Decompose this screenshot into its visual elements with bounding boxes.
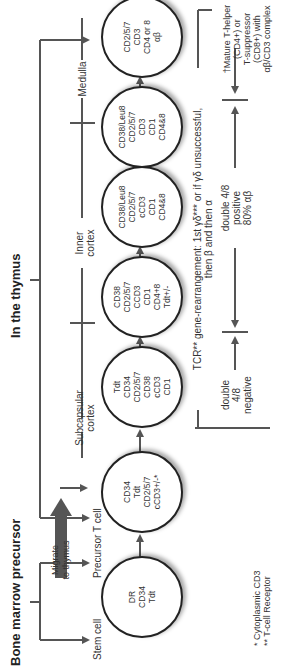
marker: CD2/5/7 <box>132 371 142 402</box>
stage-circle-subcapsular: Tdt CD34 CD2/5/7 CD38 cCD3 CD1 <box>101 346 183 428</box>
marker: cCD3 <box>152 376 162 397</box>
stage-circle-stem-cell: DR CD34 Tdt <box>101 556 183 638</box>
marker: CCD3 <box>132 285 142 308</box>
marker: CD4&8 <box>157 113 167 140</box>
marker: CD1 <box>142 289 152 306</box>
tcr-rearrangement-note: TCR** gene-rearrangement: 1st γδ*** or i… <box>192 68 214 410</box>
tcr-note-line: then β and then α <box>203 68 214 410</box>
marker: CD38 <box>112 286 122 308</box>
phase-line: positive <box>231 170 242 246</box>
stem-cell-label: Stem cell <box>92 619 103 660</box>
marker: DR <box>127 591 137 603</box>
stage-circle-inner-cortex-2: CD38/Leu8 CD2/5/7 CD3 CD1 CD4&8 <box>101 86 183 168</box>
marker: CD34 <box>122 376 132 398</box>
marker: Tdt <box>147 591 157 603</box>
region-label-line: Subcapsular <box>74 378 85 458</box>
marker: CD1 <box>162 379 172 396</box>
marker: CD38/Leu8 <box>117 106 127 149</box>
marker: CD38 <box>142 376 152 398</box>
migrate-label-line: to thymus <box>61 530 72 590</box>
thymus-header: In the thymus <box>8 253 23 338</box>
medulla-label: Medulla <box>77 60 88 98</box>
phase-line: T-suppressor <box>242 0 252 80</box>
migrate-label-line: Migrate <box>50 530 61 590</box>
tcr-note-line: TCR** gene-rearrangement: 1st γδ*** or i… <box>192 68 203 410</box>
marker: CD3 <box>137 119 147 136</box>
subcapsular-cortex-label: Subcapsular cortex <box>74 378 96 458</box>
footnotes: * Cytoplasmic CD3 ** T-cell Receptor <box>252 570 272 646</box>
phase-line: double 4/8 <box>220 170 231 246</box>
marker: CD2/5/7 <box>122 281 132 312</box>
double-positive-label: double 4/8 positive 80% αβ <box>220 170 253 246</box>
marker: CD2/5/7 <box>127 191 137 222</box>
double-negative-label: double 4/8 negative <box>220 372 253 418</box>
bone-marrow-header: Bone marrow precursor <box>8 519 23 666</box>
marker: CD2/5/7 <box>142 476 152 507</box>
marker: CD3 <box>132 29 142 46</box>
phase-line: 80% αβ <box>242 170 253 246</box>
marker: CD4 or 8 <box>142 20 152 54</box>
marker: CD1 <box>147 119 157 136</box>
marker: CD2/5/7 <box>122 21 132 52</box>
marker: cCD3 <box>137 196 147 217</box>
footnote-t-cell-receptor: ** T-cell Receptor <box>262 570 272 646</box>
marker: CD4&8 <box>157 193 167 220</box>
phase-line: †Mature T-helper <box>222 0 232 80</box>
stage-circle-precursor: CD34 Tdt CD2/5/7 cCD3+/-* <box>101 451 183 533</box>
region-label-line: cortex <box>85 218 96 268</box>
stage-circle-cortex-transition: CD38 CD2/5/7 CCD3 CD1 CD4+8 Tdt+/- <box>101 256 183 338</box>
phase-line: double <box>220 372 231 418</box>
marker: Tdt+/- <box>162 286 172 308</box>
footnote-cytoplasmic-cd3: * Cytoplasmic CD3 <box>252 570 262 646</box>
marker: CD4+8 <box>152 284 162 311</box>
phase-line: 4/8 <box>231 372 242 418</box>
marker: Tdt <box>112 381 122 393</box>
phase-line: (CD8+) with <box>252 0 262 80</box>
phase-line: negative <box>242 372 253 418</box>
marker: Tdt <box>132 486 142 498</box>
precursor-t-cell-label: Precursor T cell <box>92 508 103 578</box>
marker: αβ <box>152 32 162 42</box>
marker: cCD3+/-* <box>152 475 162 510</box>
region-label-line: Inner <box>74 218 85 268</box>
phase-line: (CD4+) or <box>232 0 242 80</box>
stage-circle-inner-cortex-1: CD38/Leu8 CD2/5/7 cCD3 CD1 CD4&8 <box>101 166 183 248</box>
marker: CD34 <box>137 586 147 608</box>
marker: CD2/5/7 <box>127 111 137 142</box>
marker: CD38/Leu8 <box>117 186 127 229</box>
inner-cortex-label: Inner cortex <box>74 218 96 268</box>
marker: CD34 <box>122 481 132 503</box>
migrate-label: Migrate to thymus <box>50 530 72 590</box>
mature-t-cell-label: †Mature T-helper (CD4+) or T-suppressor … <box>222 0 272 80</box>
thymus-t-cell-development-diagram: Bone marrow precursor In the thymus Migr… <box>0 0 293 668</box>
marker: CD1 <box>147 199 157 216</box>
region-label-line: cortex <box>85 378 96 458</box>
phase-line: αβ/CD3 complex <box>262 0 272 80</box>
